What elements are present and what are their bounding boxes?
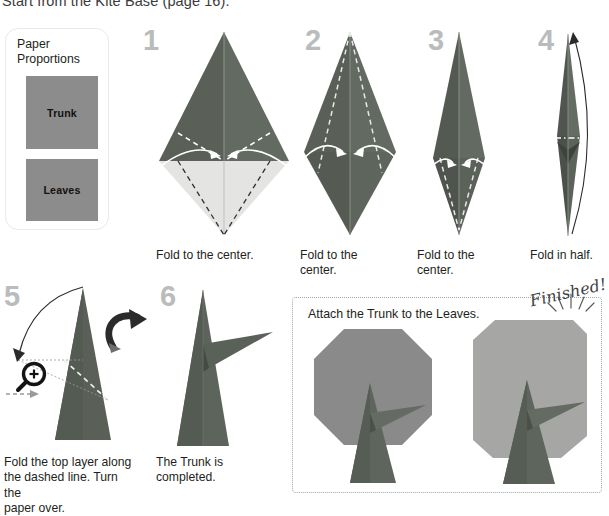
step-6-diagram [155,286,280,454]
step-1-caption: Fold to the center. [156,248,296,263]
paper-square-trunk-label: Trunk [47,107,77,119]
step-2-caption: Fold to the center. [300,248,395,279]
step-4-diagram [530,24,606,240]
step-6-caption-line2: completed. [156,470,216,484]
paper-proportions-title: Paper Proportions [17,37,107,66]
magnifier-plus-icon [18,364,45,391]
step-2-upper-left [304,32,350,152]
step-3-lower-left [433,158,459,235]
paper-proportions-title-line1: Paper [17,37,50,51]
step-3-diagram [415,30,503,238]
finished-tree-octagon [308,327,438,487]
step-1-paper-front-left [159,32,224,161]
step-2-upper-right [350,32,396,152]
step-5-caption-line3: paper over. [4,501,65,515]
step-6-trunk-left-face [177,290,203,446]
paper-square-leaves-label: Leaves [43,184,80,196]
paper-square-trunk: Trunk [26,76,98,149]
step-5-caption-line2: the dashed line. Turn the [4,470,118,499]
step-3-lower-right [459,158,485,235]
step-4-upper-left [557,34,568,136]
paper-proportions-title-line2: Proportions [17,52,80,66]
step-6-caption-line1: The Trunk is [156,455,223,469]
intro-text: Start from the Kite Base (page 16). [2,0,402,9]
step-5-caption-line1: Fold the top layer along [4,455,131,469]
step-5-trunk-left-face [55,288,83,440]
step-2-caption-line2: center. [300,263,337,277]
paper-square-leaves: Leaves [26,159,98,221]
step-2-diagram [298,30,402,238]
turn-over-arrow-icon [103,303,155,355]
step-4-upper-right [568,34,580,136]
finished-tree-rounded [465,318,595,488]
step-1-paper-front-right [224,32,289,161]
step-2-lower-right [350,152,396,235]
step-5-caption: Fold the top layer along the dashed line… [4,455,134,516]
step-3-caption-line1: Fold to the [417,248,475,262]
step-5-zoom-pointer-head [30,390,39,398]
finished-panel-caption: Attach the Trunk to the Leaves. [308,307,480,321]
step-4-caption: Fold in half. [530,248,609,263]
step-3-caption: Fold to the center. [417,248,512,279]
step-4-arrowhead [569,32,579,45]
step-3-upper-right [459,32,485,158]
paper-proportions-card: Paper Proportions Trunk Leaves [5,28,109,230]
step-3-upper-left [433,32,459,158]
step-2-lower-left [304,152,350,235]
step-1-diagram [155,30,293,238]
step-6-branch-upper [203,332,273,368]
step-2-caption-line1: Fold to the [300,248,358,262]
step-3-caption-line2: center. [417,263,454,277]
step-6-caption: The Trunk is completed. [156,455,266,486]
